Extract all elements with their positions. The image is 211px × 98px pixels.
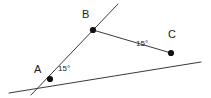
vertex-point-c <box>168 50 174 56</box>
vertex-label-c: C <box>168 29 176 40</box>
vertex-point-a <box>47 76 53 82</box>
figure-canvas <box>0 0 211 98</box>
angle-label-at-c: 15° <box>136 40 148 48</box>
angle-label-at-a: 15° <box>58 65 70 73</box>
vertex-point-b <box>90 27 96 33</box>
transversal-line <box>31 4 118 95</box>
geometry-figure: A B C 15° 15° <box>0 0 211 98</box>
vertex-label-b: B <box>82 9 89 20</box>
vertex-label-a: A <box>34 64 41 75</box>
segment-b-to-c <box>93 30 171 53</box>
